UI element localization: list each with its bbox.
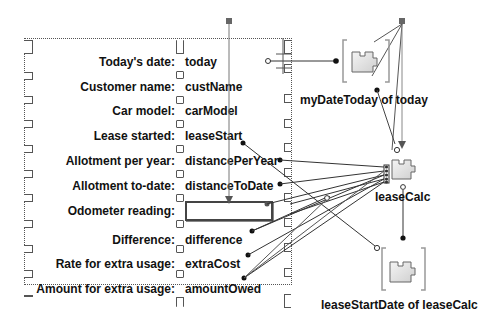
diagram-canvas: Today's date: today Customer name: custN… — [0, 0, 501, 327]
component-label-leasecalc: leaseCalc — [375, 190, 430, 204]
component-leasecalc — [384, 147, 415, 189]
component-label-leasestartdate: leaseStartDate of leaseCalc — [321, 298, 478, 312]
anchor-square — [226, 18, 232, 24]
component-leasestartdate — [382, 248, 425, 290]
connections-layer — [0, 0, 501, 327]
component-mydatetoday — [343, 40, 389, 82]
component-label-mydatetoday: myDateToday of today — [300, 93, 428, 107]
